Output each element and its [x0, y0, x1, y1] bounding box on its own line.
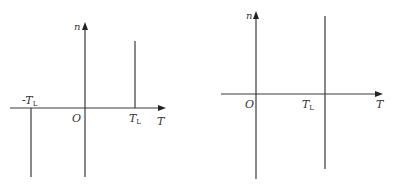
left-pos-TL-label: TL: [129, 112, 141, 126]
left-origin-label: O: [72, 112, 81, 125]
right-x-axis-arrow-icon: [375, 91, 383, 97]
left-neg-TL-label: -TL: [22, 94, 38, 108]
left-x-axis-label: T: [157, 115, 166, 128]
right-diagram: n T O TL: [221, 10, 385, 179]
left-y-axis-label: n: [74, 21, 80, 32]
right-TL-label: TL: [302, 98, 314, 112]
right-y-axis-arrow-icon: [253, 11, 259, 19]
left-diagram: n T O -TL TL: [10, 21, 166, 177]
right-x-axis-label: T: [376, 98, 385, 111]
diagram-canvas: n T O -TL TL n T O TL: [0, 0, 393, 190]
right-y-axis-label: n: [246, 10, 252, 21]
right-origin-label: O: [245, 98, 254, 111]
left-y-axis-arrow-icon: [82, 22, 88, 30]
left-x-axis-arrow-icon: [158, 105, 166, 111]
